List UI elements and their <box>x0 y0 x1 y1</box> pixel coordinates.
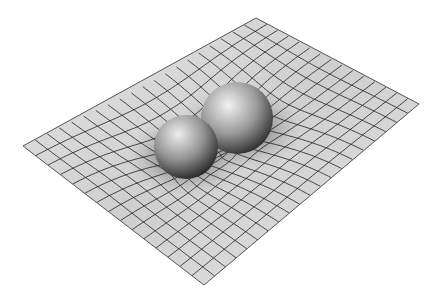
spacetime-curvature-illustration <box>0 0 441 300</box>
illustration-canvas <box>0 0 441 300</box>
front-sphere <box>154 115 218 179</box>
